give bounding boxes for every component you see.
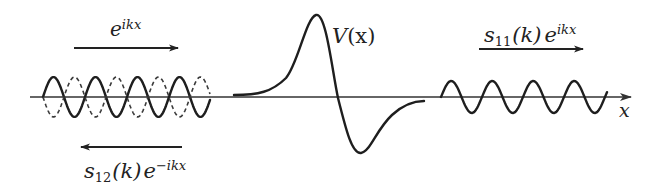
potential-label: V(x) <box>332 24 375 48</box>
incident-wave-label: eikx <box>110 17 142 41</box>
potential-curve <box>234 15 424 153</box>
scattering-diagram: x eikx s12(k)e−ikx V(x) s11(k)eikx <box>0 0 654 190</box>
x-axis-label: x <box>619 99 630 121</box>
transmitted-wave-label: s11(k)eikx <box>484 22 577 49</box>
reflected-wave-label: s12(k)e−ikx <box>84 158 187 185</box>
